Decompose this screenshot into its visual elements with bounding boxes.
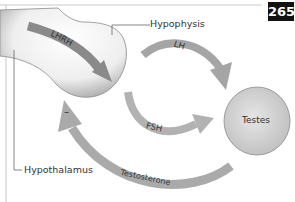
hypothalamus-label: Hypothalamus	[24, 164, 93, 175]
testes-label: Testes	[242, 115, 270, 125]
negative-feedback-sign: –	[64, 106, 69, 117]
page-number-badge: 265	[268, 2, 294, 21]
hypothalamus-hypophysis-shape	[0, 8, 126, 97]
hormone-diagram: 265 Hypophysis Hypothalamus Testes LHRH …	[0, 0, 295, 202]
fsh-arrow	[128, 92, 214, 134]
lh-arrow	[143, 43, 232, 90]
hypophysis-label: Hypophysis	[150, 18, 205, 29]
